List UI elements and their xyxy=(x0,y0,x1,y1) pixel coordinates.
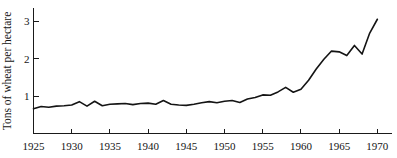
x-tick-label: 1925 xyxy=(23,140,46,152)
x-tick-label: 1955 xyxy=(252,140,275,152)
x-tick-label: 1970 xyxy=(366,140,389,152)
y-tick-label: 3 xyxy=(24,15,30,27)
line-chart: 123 192519301935194019451950195519601965… xyxy=(0,0,397,158)
y-tick-label: 2 xyxy=(24,53,30,65)
x-tick-label: 1935 xyxy=(99,140,122,152)
x-tick-label: 1945 xyxy=(175,140,198,152)
x-tick-label: 1960 xyxy=(290,140,313,152)
x-tick-group: 1925193019351940194519501955196019651970 xyxy=(23,129,389,152)
wheat-yield-figure: 123 192519301935194019451950195519601965… xyxy=(0,0,397,158)
wheat-yield-line xyxy=(34,19,378,109)
x-tick-label: 1965 xyxy=(328,140,351,152)
x-tick-label: 1930 xyxy=(61,140,84,152)
y-tick-group: 123 xyxy=(24,15,39,102)
axis-group xyxy=(34,8,393,134)
y-tick-label: 1 xyxy=(24,90,30,102)
y-axis-title: Tons of wheat per hectare xyxy=(1,12,14,131)
x-tick-label: 1950 xyxy=(214,140,237,152)
x-tick-label: 1940 xyxy=(137,140,160,152)
